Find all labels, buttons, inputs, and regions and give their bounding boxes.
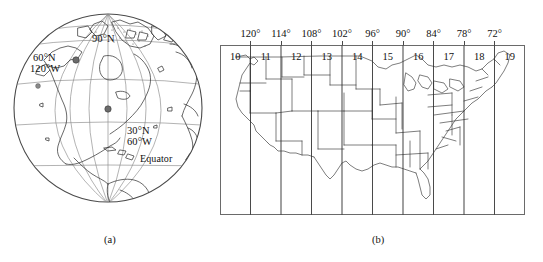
globe-label-60w: 60°W [127,136,152,148]
degree-label-90deg: 90° [396,28,411,39]
caption-figure-b: (b) [372,234,384,245]
figure-a-globe: 90°N 60°N 120°W 30°N 60°W Equator [0,0,225,262]
degree-label-114deg: 114° [271,28,291,39]
globe-label-equator: Equator [140,153,172,165]
globe-label-120w: 120°W [30,63,60,75]
marker-left-limb [36,84,41,89]
degree-label-120deg: 120° [241,28,261,39]
utm-zone-lines [251,45,495,215]
caption-figure-a: (a) [104,234,116,245]
globe-label-30n: 30°N [127,125,150,137]
marker-30n-60w [105,106,111,112]
degree-label-108deg: 108° [302,28,322,39]
us-map-graphic [220,45,525,215]
degree-label-96deg: 96° [365,28,380,39]
globe-label-90n: 90°N [92,33,115,45]
degree-label-84deg: 84° [426,28,441,39]
globe-label-60n: 60°N [33,52,56,64]
degree-label-row: 120°114°108°102°96°90°84°78°72° [220,28,525,45]
degree-label-72deg: 72° [487,28,502,39]
figure-b-utm-zones: 120°114°108°102°96°90°84°78°72° 10111213… [220,0,543,262]
degree-label-102deg: 102° [332,28,352,39]
marker-60n-120w [73,57,79,63]
degree-label-78deg: 78° [457,28,472,39]
